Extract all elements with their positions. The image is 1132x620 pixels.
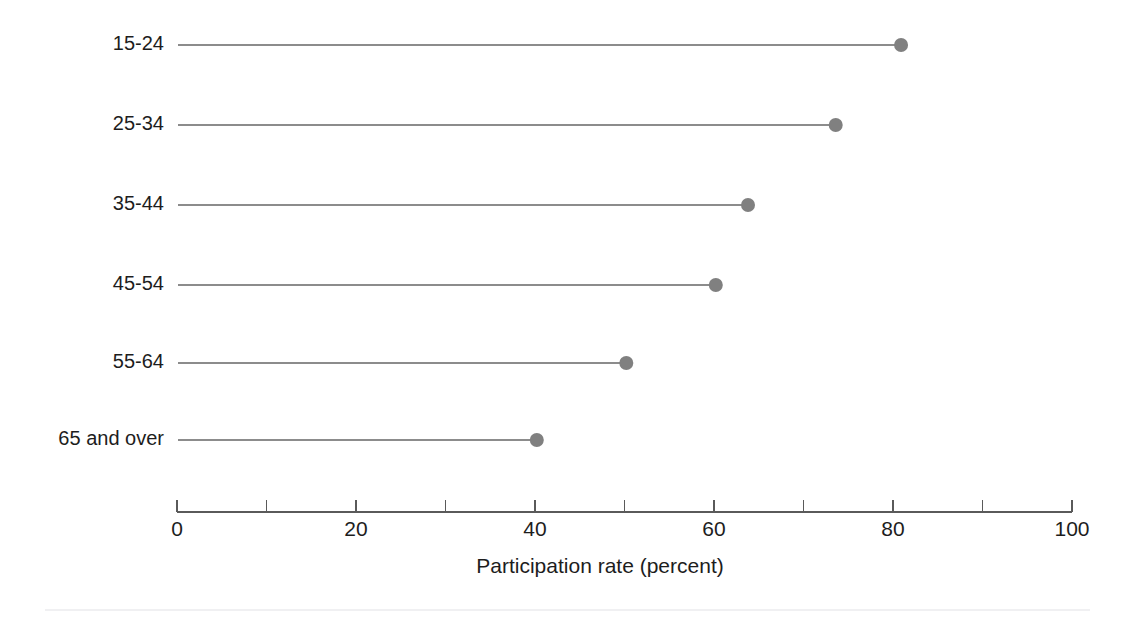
lollipop-marker	[894, 38, 908, 52]
x-axis-tick-label: 80	[881, 517, 904, 540]
category-label: 45-54	[113, 272, 164, 294]
category-label: 55-64	[113, 350, 164, 372]
lollipop-row: 55-64	[113, 350, 633, 372]
category-label: 65 and over	[58, 427, 164, 449]
lollipop-chart: 15-2425-3435-4445-5455-6465 and over 020…	[0, 0, 1132, 620]
x-axis-group: 020406080100	[171, 500, 1089, 540]
lollipop-marker	[741, 198, 755, 212]
x-axis-tick-label: 40	[523, 517, 546, 540]
lollipop-row: 25-34	[113, 112, 843, 134]
lollipop-marker	[829, 118, 843, 132]
plot-rows-group: 15-2425-3435-4445-5455-6465 and over	[58, 32, 908, 449]
lollipop-marker	[709, 278, 723, 292]
lollipop-marker	[530, 433, 544, 447]
lollipop-marker	[619, 356, 633, 370]
category-label: 35-44	[113, 192, 164, 214]
x-axis-tick-label: 100	[1054, 517, 1089, 540]
x-axis-tick-label: 60	[702, 517, 725, 540]
chart-container: 15-2425-3435-4445-5455-6465 and over 020…	[0, 0, 1132, 620]
lollipop-row: 45-54	[113, 272, 723, 294]
lollipop-row: 15-24	[113, 32, 908, 54]
lollipop-row: 35-44	[113, 192, 755, 214]
x-axis-tick-label: 20	[344, 517, 367, 540]
category-label: 15-24	[113, 32, 164, 54]
x-axis-title: Participation rate (percent)	[476, 554, 723, 577]
x-axis-tick-label: 0	[171, 517, 183, 540]
category-label: 25-34	[113, 112, 164, 134]
lollipop-row: 65 and over	[58, 427, 543, 449]
